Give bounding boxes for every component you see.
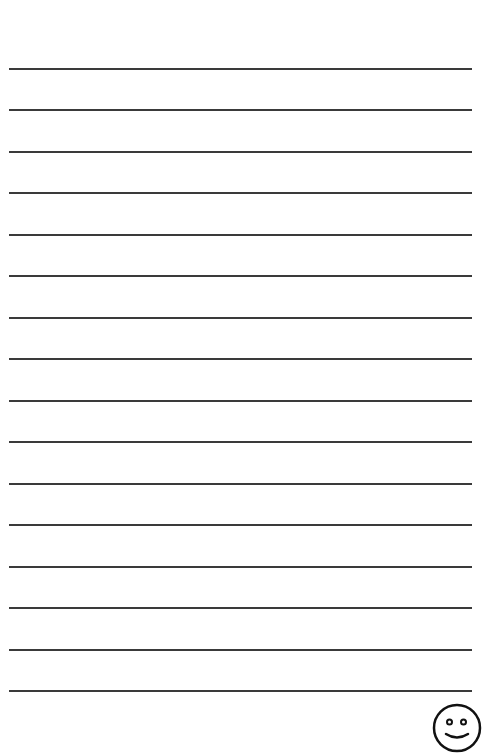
ruled-line [9,192,472,194]
ruled-line [9,483,472,485]
ruled-line [9,234,472,236]
ruled-line [9,649,472,651]
ruled-line [9,275,472,277]
ruled-line [9,317,472,319]
ruled-line [9,400,472,402]
ruled-line [9,441,472,443]
ruled-line [9,690,472,692]
ruled-line [9,566,472,568]
ruled-line [9,151,472,153]
ruled-line [9,109,472,111]
ruled-line [9,68,472,70]
ruled-line [9,607,472,609]
smiley-face-icon [432,703,482,753]
ruled-line [9,358,472,360]
ruled-line [9,524,472,526]
